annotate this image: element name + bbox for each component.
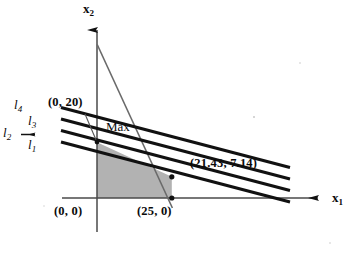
isoline-label-l3: l3 <box>28 114 36 127</box>
isoline-label-l1: l1 <box>28 138 36 151</box>
y-axis-label: x2 <box>83 2 94 15</box>
linear-program-figure: x2 x1 (0, 20) Max (21.43, 7.14) (0, 0) (… <box>0 0 356 260</box>
max-label: Max <box>106 120 130 133</box>
y-axis-label-sub: 2 <box>90 8 95 18</box>
vertex-label-25-0: (25, 0) <box>137 205 172 218</box>
isoline-label-l4: l4 <box>14 98 22 111</box>
x-axis-label-text: x <box>332 190 339 205</box>
x-axis-label: x1 <box>332 191 343 204</box>
vertex-label-0-20: (0, 20) <box>48 96 83 109</box>
isoline-label-l2: l2 <box>3 126 11 139</box>
isoline-label-l2-sub: 2 <box>7 132 12 142</box>
vertex-dot-0-20 <box>95 140 100 145</box>
vertex-label-0-0: (0, 0) <box>54 205 82 218</box>
x-axis-label-sub: 1 <box>339 197 344 207</box>
isoline-l1 <box>61 142 290 202</box>
y-axis-label-text: x <box>83 1 90 16</box>
objective-isolines <box>61 108 290 203</box>
isoline-label-l4-sub: 4 <box>18 104 23 114</box>
isoline-label-l1-sub: 1 <box>32 144 37 154</box>
isoline-label-l3-sub: 3 <box>32 120 37 130</box>
vertex-label-21-43-7-14: (21.43, 7.14) <box>190 157 257 170</box>
graph-canvas <box>0 0 356 260</box>
isoline-l3 <box>61 119 290 179</box>
vertex-dot-25-0 <box>169 195 174 200</box>
vertex-dot-21-7 <box>169 174 174 179</box>
